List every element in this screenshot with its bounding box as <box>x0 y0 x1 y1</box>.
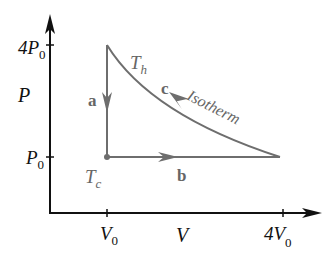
cold-temp-label: Tc <box>85 166 102 191</box>
hot-temp-label: Th <box>130 52 147 77</box>
y-axis-label: P <box>17 84 30 106</box>
x-tick-label-4v0: 4V0 <box>264 223 292 250</box>
x-tick-label-v0: V0 <box>100 223 118 248</box>
x-axis-label: V <box>176 224 191 246</box>
process-c-label: c <box>161 79 169 98</box>
cold-point-dot <box>104 154 110 160</box>
y-tick-label-p0: P0 <box>25 147 44 172</box>
process-b-label: b <box>177 166 186 185</box>
process-a-label: a <box>88 91 97 110</box>
pv-diagram: 4P0 P P0 V0 V 4V0 a b c Th Tc Isotherm <box>0 0 334 256</box>
y-tick-label-4p0: 4P0 <box>18 37 46 62</box>
